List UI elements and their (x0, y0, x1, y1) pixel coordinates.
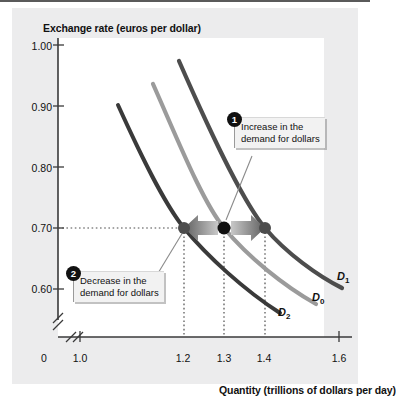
curve-label-d2: D2 (278, 306, 290, 321)
annotation-badge-2: 2 (66, 266, 81, 281)
equilibrium-point-12 (178, 222, 190, 234)
annotation-1-line-2: demand for dollars (241, 133, 320, 145)
equilibrium-point-13 (218, 222, 231, 235)
annotation-2-line-1: Decrease in the (80, 275, 159, 287)
annotation-badge-1: 1 (227, 112, 242, 127)
annotation-callout-increase: Increase in the demand for dollars (234, 117, 325, 148)
curve-label-d1: D1 (337, 270, 349, 285)
annotation-callout-decrease: Decrease in the demand for dollars (73, 271, 164, 302)
figure-panel: Exchange rate (euros per dollar) Quantit… (12, 8, 358, 384)
x-axis-title: Quantity (trillions of dollars per day) (219, 384, 396, 396)
equilibrium-point-14 (259, 222, 271, 234)
page-top-rule (0, 0, 370, 2)
curve-label-d0: D0 (312, 291, 324, 306)
chart-svg (12, 8, 358, 384)
annotation-1-line-1: Increase in the (241, 121, 320, 133)
curve-d1 (179, 61, 342, 288)
annotation-2-line-2: demand for dollars (80, 287, 159, 299)
